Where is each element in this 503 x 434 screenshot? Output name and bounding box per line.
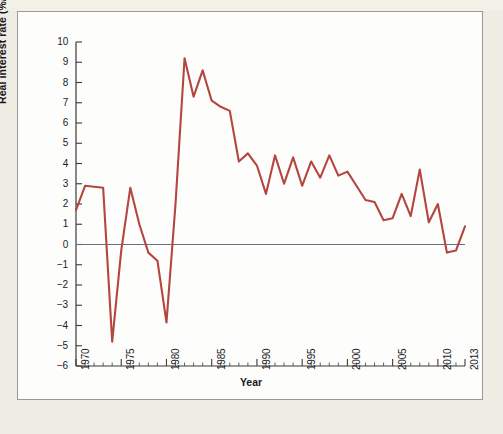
y-tick-label: 7	[42, 97, 68, 108]
y-tick-label: −6	[42, 360, 68, 371]
page-top-band	[0, 0, 503, 11]
y-tick-label: 0	[42, 239, 68, 250]
x-tick-label: 1975	[125, 349, 136, 370]
y-tick-label: 3	[42, 178, 68, 189]
y-tick-label: 8	[42, 77, 68, 88]
x-tick-label: 1970	[80, 349, 91, 370]
figure-frame: Real interest rate (%/year) Year 1098765…	[17, 11, 483, 400]
scanned-page: Real interest rate (%/year) Year 1098765…	[0, 0, 503, 434]
x-tick-label: 1995	[306, 349, 317, 370]
x-tick-label: 1985	[216, 349, 227, 370]
line-chart-plot	[18, 12, 484, 401]
x-tick-label: 1990	[261, 349, 272, 370]
y-tick-label: −5	[42, 340, 68, 351]
y-axis-label: Real interest rate (%/year)	[0, 0, 8, 104]
figure-caption	[17, 404, 483, 430]
x-tick-label: 2013	[469, 349, 480, 370]
x-tick-label: 2005	[397, 349, 408, 370]
x-tick-label: 1980	[170, 349, 181, 370]
y-tick-label: −4	[42, 320, 68, 331]
y-tick-label: 9	[42, 56, 68, 67]
y-tick-label: −3	[42, 299, 68, 310]
x-tick-label: 2000	[351, 349, 362, 370]
x-tick-label: 2010	[442, 349, 453, 370]
y-tick-label: 6	[42, 117, 68, 128]
real-interest-rate-series	[76, 58, 465, 342]
y-tick-label: 2	[42, 198, 68, 209]
y-tick-label: −1	[42, 259, 68, 270]
y-tick-label: 4	[42, 158, 68, 169]
y-tick-label: 10	[42, 36, 68, 47]
y-tick-label: 5	[42, 137, 68, 148]
y-tick-label: −2	[42, 279, 68, 290]
y-tick-label: 1	[42, 218, 68, 229]
